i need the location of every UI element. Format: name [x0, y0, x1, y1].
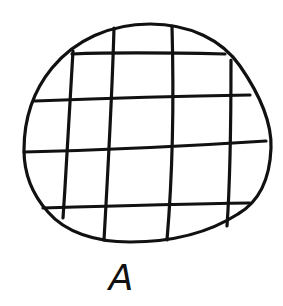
gridded-blob-figure — [0, 0, 283, 306]
blob-outline — [24, 24, 271, 242]
figure-label: A — [104, 258, 138, 298]
